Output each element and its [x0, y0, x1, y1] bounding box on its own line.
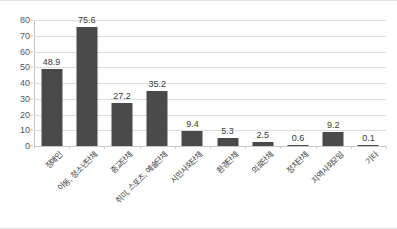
y-axis-labels: 80706050403020100 — [0, 20, 30, 146]
x-axis-tick-mark — [104, 146, 105, 149]
y-axis-tick-label: 20 — [20, 110, 30, 120]
bar-value-label: 5.3 — [221, 126, 234, 136]
bar-value-label: 27.2 — [113, 91, 131, 101]
x-axis-category-label: 지역사회모임 — [276, 150, 346, 220]
bar-slot: 0.6 — [280, 20, 315, 146]
x-axis-category-label: 취미, 스포츠, 예술단체 — [100, 150, 170, 220]
x-axis-tick-mark — [280, 146, 281, 149]
y-axis-tick-label: 30 — [20, 94, 30, 104]
x-axis-category-label: 의료단체 — [205, 150, 275, 220]
y-axis-tick-mark — [30, 114, 33, 115]
x-axis-tick-mark — [210, 146, 211, 149]
bar-slot: 48.9 — [34, 20, 69, 146]
x-axis-tick-mark — [245, 146, 246, 149]
bar-slot: 9.4 — [175, 20, 210, 146]
x-axis-tick-mark — [69, 146, 70, 149]
y-axis-tick-label: 40 — [20, 78, 30, 88]
x-axis-tick-mark — [34, 146, 35, 149]
y-axis-tick-mark — [30, 20, 33, 21]
bar-value-label: 75.6 — [78, 15, 96, 25]
x-axis-category-label: 종교단체 — [64, 150, 134, 220]
top-edge-line — [0, 0, 397, 1]
x-axis-category-label: 아동, 청소년단체 — [29, 150, 99, 220]
bar[interactable] — [147, 91, 168, 146]
bar[interactable] — [76, 27, 97, 146]
bar[interactable] — [217, 138, 238, 146]
bar-slot: 75.6 — [69, 20, 104, 146]
bar-value-label: 2.5 — [257, 130, 270, 140]
y-axis-tick-mark — [30, 51, 33, 52]
y-axis-tick-mark — [30, 67, 33, 68]
bar-value-label: 0.1 — [362, 133, 375, 143]
x-axis-labels: 장애인아동, 청소년단체종교단체취미, 스포츠, 예술단체시민사회단체환경단체의… — [34, 150, 386, 226]
y-axis-tick-mark — [30, 83, 33, 84]
bar-value-label: 0.6 — [292, 133, 305, 143]
x-axis-tick-mark — [140, 146, 141, 149]
x-axis-category-label: 기타 — [311, 150, 381, 220]
y-axis-tick-mark — [30, 98, 33, 99]
x-axis-category-label: 시민사회단체 — [135, 150, 205, 220]
bar-slot: 9.2 — [316, 20, 351, 146]
bar-slot: 27.2 — [104, 20, 139, 146]
y-axis-tick-mark — [30, 146, 33, 147]
x-axis-category-label: 환경단체 — [170, 150, 240, 220]
bar-value-label: 9.4 — [186, 119, 199, 129]
bars-layer: 48.975.627.235.29.45.32.50.69.20.1 — [34, 20, 386, 146]
bar[interactable] — [182, 131, 203, 146]
y-axis-tick-label: 80 — [20, 15, 30, 25]
y-axis-tick-mark — [30, 35, 33, 36]
x-axis-tick-mark — [386, 146, 387, 149]
y-axis-tick-label: 10 — [20, 125, 30, 135]
bar-slot: 2.5 — [245, 20, 280, 146]
bar-slot: 35.2 — [140, 20, 175, 146]
x-axis-tick-mark — [351, 146, 352, 149]
bar-value-label: 35.2 — [148, 79, 166, 89]
plot-area: 48.975.627.235.29.45.32.50.69.20.1 — [34, 20, 386, 146]
y-axis-tick-label: 70 — [20, 31, 30, 41]
bar[interactable] — [111, 103, 132, 146]
bar-chart: 80706050403020100 48.975.627.235.29.45.3… — [0, 0, 397, 229]
y-axis-tick-label: 60 — [20, 47, 30, 57]
bar[interactable] — [323, 132, 344, 146]
bar-value-label: 9.2 — [327, 120, 340, 130]
bar-slot: 0.1 — [351, 20, 386, 146]
bar[interactable] — [41, 69, 62, 146]
x-axis-tick-mark — [175, 146, 176, 149]
bar-slot: 5.3 — [210, 20, 245, 146]
x-axis-tick-mark — [316, 146, 317, 149]
y-axis-tick-mark — [30, 130, 33, 131]
bottom-edge-line — [0, 228, 397, 229]
x-axis-category-label: 정치단체 — [240, 150, 310, 220]
y-axis-tick-label: 50 — [20, 62, 30, 72]
bar-value-label: 48.9 — [43, 57, 61, 67]
